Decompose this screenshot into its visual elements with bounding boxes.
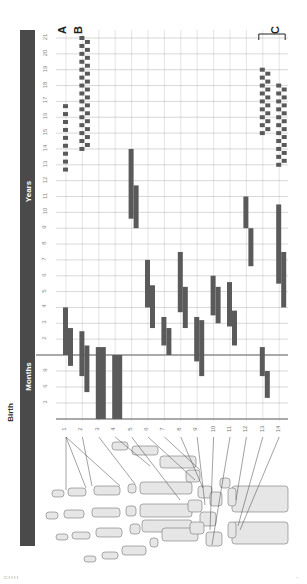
year-tick-label: 12	[42, 176, 48, 183]
bone-number-label: 10	[210, 426, 216, 433]
year-tick-label: 18	[42, 81, 48, 88]
bone-number-label: 5	[126, 427, 132, 430]
bone-number-label: 9	[192, 427, 198, 430]
bone-number-label: 11	[226, 426, 232, 432]
page-number: ··	[296, 574, 299, 580]
year-tick-label: 9	[41, 226, 47, 229]
year-tick-label: 17	[42, 97, 48, 104]
year-tick-label: 19	[42, 65, 48, 72]
year-tick-label: 20	[42, 50, 48, 57]
year-tick-label: 6	[41, 273, 47, 276]
bone-number-label: 4	[110, 427, 116, 430]
year-tick-label: 8	[41, 241, 47, 244]
year-tick-label: 15	[42, 129, 48, 136]
year-tick-label: 11	[42, 192, 48, 198]
year-tick-label: 5	[41, 289, 47, 292]
bone-number-label: 7	[159, 427, 165, 430]
ossification-chart: Years Months Birth A B C □ ı ı ı ı ·· 36…	[0, 0, 307, 584]
bone-number-label: 13	[259, 426, 265, 433]
month-tick-label: 9	[42, 368, 48, 371]
bone-number-label: 8	[175, 427, 181, 430]
year-tick-label: 16	[42, 113, 48, 120]
bone-number-label: 3	[93, 427, 99, 430]
year-tick-label: 7	[41, 257, 47, 260]
year-tick-label: 4	[41, 305, 47, 308]
bone-number-label: 2	[77, 427, 83, 430]
bone-number-label: 14	[276, 426, 282, 433]
year-tick-label: 21	[42, 34, 48, 41]
bone-number-label: 12	[243, 426, 249, 433]
year-tick-label: 3	[41, 321, 47, 324]
year-tick-label: 14	[42, 145, 48, 152]
bone-number-label: 6	[143, 427, 149, 430]
year-tick-label: 10	[42, 208, 48, 215]
month-tick-label: 3	[42, 400, 48, 403]
footer-left: □ ı ı ı ı	[4, 574, 18, 580]
year-tick-label: 13	[42, 160, 48, 167]
month-tick-label: 6	[42, 384, 48, 387]
bone-number-label: 1	[61, 427, 67, 430]
year-tick-label: 2	[41, 336, 47, 339]
